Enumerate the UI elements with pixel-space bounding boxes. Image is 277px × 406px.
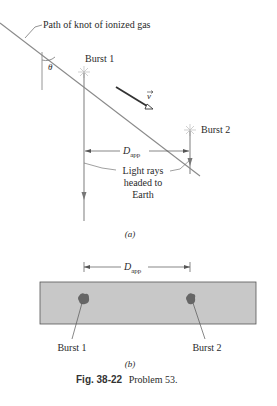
- burst2-label: Burst 2: [201, 124, 230, 135]
- burst1-blob-icon: [78, 293, 89, 304]
- panel-a: Path of knot of ionized gas θ Burst 1 v …: [0, 19, 230, 239]
- light-rays-label-line1: Light rays: [123, 165, 164, 176]
- light-ray-1-arrow-icon: [82, 192, 87, 200]
- burst2-label-b: Burst 2: [192, 342, 221, 353]
- velocity-arrow-shaft: [116, 87, 147, 106]
- light-rays-label-line2: headed to: [124, 177, 163, 188]
- path-label-leader: [25, 25, 42, 38]
- dapp-label-a: Dapp: [122, 145, 141, 159]
- path-label: Path of knot of ionized gas: [43, 19, 151, 30]
- velocity-symbol: v: [147, 91, 151, 101]
- panel-b: Dapp Burst 1 Burst 2 (b): [40, 261, 256, 369]
- theta-arc: [42, 57, 55, 61]
- figure-canvas: Path of knot of ionized gas θ Burst 1 v …: [0, 0, 277, 406]
- panel-b-label: (b): [125, 359, 136, 369]
- panel-a-label: (a): [125, 229, 136, 239]
- light-rays-label-line3: Earth: [132, 189, 154, 200]
- burst1-label: Burst 1: [85, 53, 114, 64]
- burst1-label-b: Burst 1: [57, 342, 86, 353]
- knot-path-line: [0, 23, 200, 176]
- light-rays-leader-left: [84, 163, 116, 170]
- dapp-label-b: Dapp: [123, 261, 142, 275]
- theta-symbol: θ: [48, 62, 53, 72]
- figure-caption: Fig. 38-22 Problem 53.: [76, 374, 178, 385]
- photographic-plate: [40, 282, 256, 324]
